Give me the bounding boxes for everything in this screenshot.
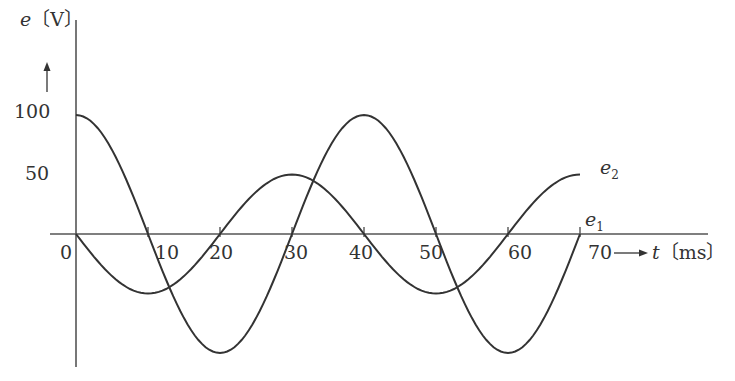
x-axis-label: t〔ms〕	[652, 243, 725, 262]
x-tick-20: 20	[209, 243, 233, 262]
x-axis-var: t	[652, 241, 660, 263]
e2-label-sub: 2	[611, 168, 619, 182]
x-tick-40: 40	[349, 243, 373, 262]
x-axis-unit: 〔ms〕	[660, 241, 726, 263]
y-label-arrow-head	[44, 62, 51, 71]
y-tick-50: 50	[25, 164, 49, 183]
x-tick-60: 60	[508, 243, 532, 262]
x-tick-50: 50	[419, 243, 443, 262]
y-tick-100: 100	[14, 102, 50, 121]
x-label-arrow-head	[639, 250, 648, 257]
waveform-chart	[0, 0, 735, 381]
y-axis-label: e〔V〕	[20, 10, 83, 29]
e2-label-base: e	[600, 156, 611, 178]
y-axis-unit: 〔V〕	[31, 8, 83, 30]
e1-label-sub: 1	[596, 220, 604, 234]
e2-label: e2	[600, 158, 619, 181]
e1-label-base: e	[585, 208, 596, 230]
x-tick-0: 0	[60, 243, 72, 262]
x-tick-30: 30	[284, 243, 308, 262]
e1-label: e1	[585, 210, 604, 233]
y-axis-var: e	[20, 8, 31, 30]
x-tick-10: 10	[155, 243, 179, 262]
x-tick-70: 70	[588, 243, 612, 262]
